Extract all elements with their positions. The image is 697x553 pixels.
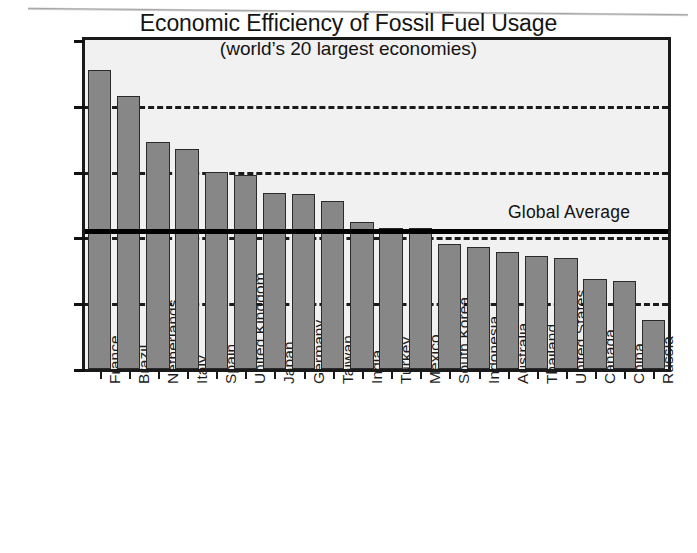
global-average-line	[85, 229, 668, 234]
x-tick-mark-0	[100, 369, 102, 379]
bar-canada	[583, 279, 606, 369]
x-tick-mark-5	[245, 369, 247, 379]
bar-russia	[642, 320, 665, 369]
plot-area: Global Average 048121620	[82, 37, 671, 372]
title-block: Economic Efficiency of Fossil Fuel Usage…	[0, 11, 697, 60]
bar-united-states	[554, 258, 577, 369]
y-tick-mark-12	[74, 172, 85, 175]
x-tick-mark-17	[595, 369, 597, 379]
x-tick-mark-11	[420, 369, 422, 379]
x-tick-mark-19	[653, 369, 655, 379]
bar-turkey	[379, 228, 402, 369]
bar-japan	[263, 193, 286, 369]
x-tick-mark-7	[304, 369, 306, 379]
x-tick-mark-3	[187, 369, 189, 379]
chart-title: Economic Efficiency of Fossil Fuel Usage	[0, 11, 697, 37]
bar-italy	[175, 149, 198, 369]
x-tick-mark-13	[479, 369, 481, 379]
chart-subtitle: (world’s 20 largest economies)	[0, 38, 697, 60]
bar-china	[613, 281, 636, 369]
bar-mexico	[409, 228, 432, 369]
bar-netherlands	[146, 142, 169, 369]
bar-france	[88, 70, 111, 369]
bar-south-korea	[438, 244, 461, 369]
x-tick-mark-2	[158, 369, 160, 379]
bar-india	[350, 222, 373, 369]
x-tick-mark-6	[274, 369, 276, 379]
y-tick-mark-8	[74, 237, 85, 240]
bar-united-kingdom	[234, 175, 257, 369]
bar-indonesia	[467, 247, 490, 369]
chart-figure: GDP Dollars / kg Carbon Emitted Global A…	[0, 0, 697, 553]
y-tick-mark-4	[74, 303, 85, 306]
x-tick-mark-9	[362, 369, 364, 379]
x-tick-mark-12	[449, 369, 451, 379]
x-tick-mark-18	[624, 369, 626, 379]
x-tick-mark-15	[537, 369, 539, 379]
x-tick-mark-10	[391, 369, 393, 379]
bar-germany	[292, 194, 315, 369]
bar-australia	[496, 252, 519, 369]
x-tick-mark-14	[508, 369, 510, 379]
x-tick-mark-4	[216, 369, 218, 379]
bar-thailand	[525, 256, 548, 369]
bar-taiwan	[321, 201, 344, 369]
x-tick-mark-8	[333, 369, 335, 379]
global-average-label: Global Average	[508, 202, 630, 223]
y-tick-mark-16	[74, 106, 85, 109]
x-tick-mark-1	[129, 369, 131, 379]
y-tick-mark-0	[74, 369, 85, 372]
bar-spain	[205, 172, 228, 369]
x-tick-mark-16	[566, 369, 568, 379]
